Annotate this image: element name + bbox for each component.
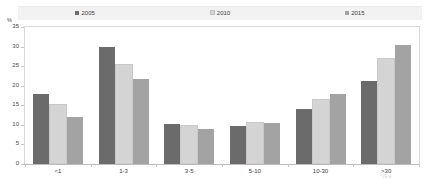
y-axis-tick-mark xyxy=(21,47,24,48)
bar-2015-10-30[interactable] xyxy=(330,94,346,164)
corner-watermark: ^(9-a xyxy=(380,174,392,179)
chart-legend: 2005 2010 2015 xyxy=(18,6,422,19)
bar-2015-5-10[interactable] xyxy=(264,123,280,164)
y-axis-tick-label: 35 xyxy=(12,23,19,29)
legend-swatch-2015 xyxy=(345,11,349,15)
x-axis-label-5-10: 5-10 xyxy=(222,166,288,178)
y-axis-tick-mark xyxy=(21,125,24,126)
bar-group-1-3 xyxy=(91,27,157,164)
bar-2010-10-30[interactable] xyxy=(312,99,330,164)
y-axis-tick-mark xyxy=(21,105,24,106)
bar-group-5-10 xyxy=(222,27,288,164)
y-axis-tick-label: 10 xyxy=(12,121,19,127)
y-axis-tick-mark xyxy=(21,86,24,87)
bar-2010-5-10[interactable] xyxy=(246,122,264,164)
bar-2005-10-30[interactable] xyxy=(296,109,312,164)
x-axis-label-3-5: 3-5 xyxy=(156,166,222,178)
bar-2015-3-5[interactable] xyxy=(198,129,214,164)
bar-2010->30[interactable] xyxy=(377,58,395,165)
bars-container xyxy=(25,27,419,164)
y-axis-unit-label: % xyxy=(7,17,12,23)
bar-2015->30[interactable] xyxy=(395,45,411,164)
chart-root: 2005 2010 2015 % 35302520151050 <11-33-5… xyxy=(0,0,426,186)
bar-group-30 xyxy=(353,27,419,164)
y-axis-tick-label: 15 xyxy=(12,101,19,107)
bar-2015-<1[interactable] xyxy=(67,117,83,164)
legend-swatch-2005 xyxy=(75,11,79,15)
legend-label-2010: 2010 xyxy=(217,10,230,16)
bar-2010-<1[interactable] xyxy=(49,104,67,164)
x-axis-labels: <11-33-55-1010-30>30 xyxy=(25,166,419,178)
y-axis-tick-label: 5 xyxy=(16,140,19,146)
legend-swatch-2010 xyxy=(210,10,215,15)
y-axis-tick-mark xyxy=(21,144,24,145)
y-axis-tick-mark xyxy=(21,27,24,28)
x-axis-tick xyxy=(419,164,420,167)
x-axis-label-10-30: 10-30 xyxy=(288,166,354,178)
bar-group-1 xyxy=(25,27,91,164)
bar-2010-3-5[interactable] xyxy=(180,125,198,164)
bar-2005-1-3[interactable] xyxy=(99,47,115,164)
bar-2005-5-10[interactable] xyxy=(230,126,246,164)
y-axis-tick-label: 20 xyxy=(12,82,19,88)
y-axis-tick-label: 0 xyxy=(16,160,19,166)
bar-2010-1-3[interactable] xyxy=(115,64,133,164)
bar-2015-1-3[interactable] xyxy=(133,79,149,164)
bar-group-3-5 xyxy=(156,27,222,164)
legend-label-2005: 2005 xyxy=(81,10,94,16)
y-axis-tick-mark xyxy=(21,66,24,67)
y-axis-tick-label: 25 xyxy=(12,62,19,68)
legend-item-2010[interactable]: 2010 xyxy=(210,10,230,16)
legend-item-2015[interactable]: 2015 xyxy=(345,10,364,16)
bar-group-10-30 xyxy=(288,27,354,164)
bar-2005-3-5[interactable] xyxy=(164,124,180,164)
legend-item-2005[interactable]: 2005 xyxy=(75,10,94,16)
x-axis-label-1: <1 xyxy=(25,166,91,178)
legend-label-2015: 2015 xyxy=(351,10,364,16)
y-axis-tick-label: 30 xyxy=(12,43,19,49)
x-axis-label-1-3: 1-3 xyxy=(91,166,157,178)
bar-2005->30[interactable] xyxy=(361,81,377,164)
bar-2005-<1[interactable] xyxy=(33,94,49,164)
